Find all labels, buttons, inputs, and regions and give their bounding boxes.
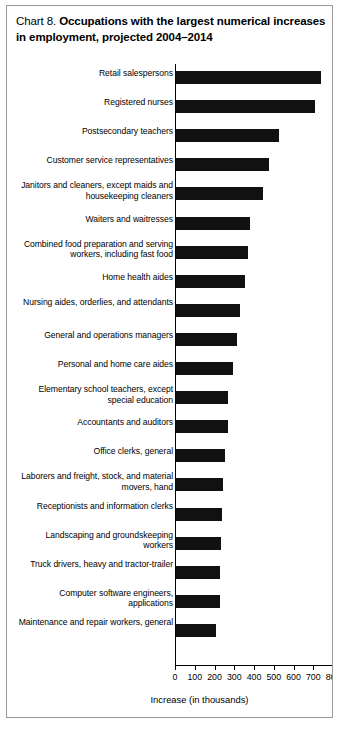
x-axis-tick [294,666,295,670]
bar-track [176,384,333,413]
bar-row: Postsecondary teachers [7,122,333,151]
bar-category-label: Maintenance and repair workers, general [15,617,173,628]
bar [176,537,221,550]
bar [176,71,321,84]
bar-row: General and operations managers [7,326,333,355]
bar-row: Maintenance and repair workers, general [7,617,333,646]
bar-row: Registered nurses [7,93,333,122]
bar-row: Office clerks, general [7,442,333,471]
bar-category-label: Landscaping and groundskeeping workers [15,530,173,551]
x-axis-title: Increase (in thousands) [7,694,333,705]
bar [176,595,220,608]
bar-row: Waiters and waitresses [7,210,333,239]
x-axis-tick [195,666,196,670]
bar-track [176,93,333,122]
bar [176,129,279,142]
bar-category-label: Laborers and freight, stock, and materia… [15,471,173,492]
bar-category-label: Personal and home care aides [15,355,173,370]
bar-category-label: Elementary school teachers, except speci… [15,384,173,405]
bar-row: Receptionists and information clerks [7,501,333,530]
bar-row: Accountants and auditors [7,413,333,442]
bar [176,158,269,171]
bar [176,333,237,346]
bar-category-label: Customer service representatives [15,151,173,166]
x-axis-tick [274,666,275,670]
x-axis-tick [254,666,255,670]
bar-category-label: Janitors and cleaners, except maids and … [15,180,173,201]
bar [176,304,240,317]
bar-row: Landscaping and groundskeeping workers [7,530,333,559]
bar-row: Combined food preparation and serving wo… [7,239,333,268]
bar-category-label: Truck drivers, heavy and tractor-trailer [15,559,173,570]
bar-track [176,122,333,151]
bar-track [176,268,333,297]
bar [176,275,245,288]
bar-track [176,239,333,268]
bar [176,217,250,230]
bar [176,187,263,200]
bar-track [176,180,333,209]
plot-area: Retail salespersonsRegistered nursesPost… [7,64,333,664]
bar-track [176,471,333,500]
bar-category-label: Registered nurses [15,93,173,108]
bar [176,420,228,433]
bar-track [176,617,333,646]
bar [176,362,233,375]
bar-track [176,326,333,355]
bar-track [176,210,333,239]
bar-track [176,501,333,530]
bar [176,508,222,521]
bar-category-label: General and operations managers [15,326,173,341]
bar-row: Truck drivers, heavy and tractor-trailer [7,559,333,588]
bar-track [176,559,333,588]
bar-row: Customer service representatives [7,151,333,180]
bar-track [176,413,333,442]
bar [176,566,220,579]
bar-row: Elementary school teachers, except speci… [7,384,333,413]
bar-category-label: Nursing aides, orderlies, and attendants [15,297,173,308]
bar-category-label: Home health aides [15,268,173,283]
bar-track [176,355,333,384]
bar-category-label: Computer software engineers, application… [15,588,173,609]
chart-figure: Chart 8. Occupations with the largest nu… [6,5,333,718]
bar-track [176,151,333,180]
bar-track [176,64,333,93]
bar-row: Nursing aides, orderlies, and attendants [7,297,333,326]
x-axis-tick [313,666,314,670]
bar [176,449,225,462]
bar-category-label: Retail salespersons [15,64,173,79]
bar-category-label: Accountants and auditors [15,413,173,428]
bar-row: Personal and home care aides [7,355,333,384]
chart-title-text: Occupations with the largest numerical i… [16,15,325,43]
bar-track [176,530,333,559]
bar-track [176,297,333,326]
x-axis-tick [215,666,216,670]
bar-track [176,588,333,617]
bar [176,478,223,491]
x-axis-tick [234,666,235,670]
bar [176,100,315,113]
bar [176,246,248,259]
bar-row: Janitors and cleaners, except maids and … [7,180,333,209]
chart-title: Chart 8. Occupations with the largest nu… [16,14,326,45]
bar-category-label: Postsecondary teachers [15,122,173,137]
bar-category-label: Office clerks, general [15,442,173,457]
bar [176,391,228,404]
bar-category-label: Combined food preparation and serving wo… [15,239,173,260]
bar-category-label: Receptionists and information clerks [15,501,173,512]
bar-row: Retail salespersons [7,64,333,93]
bar-category-label: Waiters and waitresses [15,210,173,225]
x-axis-tick-label: 800 [318,672,333,683]
chart-title-prefix: Chart 8. [16,15,56,27]
bar-row: Home health aides [7,268,333,297]
bar-track [176,442,333,471]
y-axis-line [175,64,176,666]
bar-row: Laborers and freight, stock, and materia… [7,471,333,500]
x-axis-tick [175,666,176,670]
bar [176,624,216,637]
bar-row: Computer software engineers, application… [7,588,333,617]
